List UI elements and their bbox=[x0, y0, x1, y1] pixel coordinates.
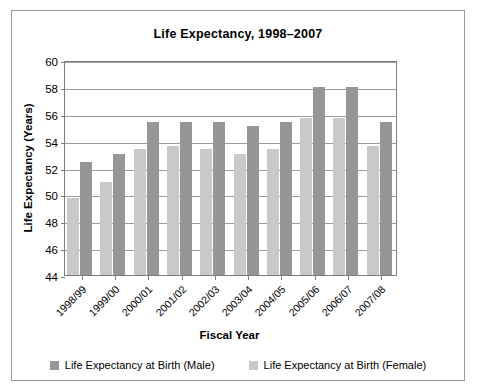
bar-group bbox=[198, 62, 231, 275]
bar-female[interactable] bbox=[200, 149, 212, 275]
y-tick-label: 50 bbox=[45, 190, 58, 202]
x-axis-title: Fiscal Year bbox=[64, 329, 395, 341]
y-tick-label: 58 bbox=[45, 83, 58, 95]
bar-male[interactable] bbox=[113, 154, 125, 275]
bar-female[interactable] bbox=[234, 154, 246, 275]
chart-legend: Life Expectancy at Birth (Male)Life Expe… bbox=[12, 359, 464, 371]
bar-group bbox=[298, 62, 331, 275]
bar-female[interactable] bbox=[267, 149, 279, 275]
x-tick-mark bbox=[348, 275, 349, 280]
bar-female[interactable] bbox=[100, 182, 112, 275]
x-tick-mark bbox=[381, 275, 382, 280]
y-tick-label: 52 bbox=[45, 164, 58, 176]
bar-female[interactable] bbox=[300, 118, 312, 275]
chart-frame: Life Expectancy, 1998–2007 Life Expectan… bbox=[11, 10, 465, 381]
bar-group bbox=[365, 62, 398, 275]
bar-group bbox=[232, 62, 265, 275]
chart-title: Life Expectancy, 1998–2007 bbox=[12, 27, 464, 41]
y-tick-label: 60 bbox=[45, 56, 58, 68]
bar-male[interactable] bbox=[380, 122, 392, 275]
bar-male[interactable] bbox=[180, 122, 192, 275]
bar-group bbox=[331, 62, 364, 275]
y-tick-label: 46 bbox=[45, 244, 58, 256]
x-tick-mark bbox=[148, 275, 149, 280]
legend-entry[interactable]: Life Expectancy at Birth (Female) bbox=[249, 359, 427, 371]
legend-swatch-icon bbox=[249, 361, 258, 370]
legend-label: Life Expectancy at Birth (Female) bbox=[264, 359, 427, 371]
x-tick-mark bbox=[182, 275, 183, 280]
x-tick-mark bbox=[315, 275, 316, 280]
y-tick-label: 44 bbox=[45, 271, 58, 283]
y-tick-label: 54 bbox=[45, 137, 58, 149]
bar-male[interactable] bbox=[280, 122, 292, 275]
bar-female[interactable] bbox=[167, 146, 179, 275]
bar-male[interactable] bbox=[346, 87, 358, 275]
bar-female[interactable] bbox=[134, 149, 146, 275]
y-axis-title: Life Expectancy (Years) bbox=[20, 61, 36, 274]
bar-female[interactable] bbox=[333, 118, 345, 275]
plot-area: 6058565452504846441998/991999/002000/012… bbox=[64, 61, 397, 276]
y-tick-label: 48 bbox=[45, 217, 58, 229]
x-tick-mark bbox=[248, 275, 249, 280]
bar-group bbox=[98, 62, 131, 275]
x-tick-mark bbox=[82, 275, 83, 280]
legend-entry[interactable]: Life Expectancy at Birth (Male) bbox=[50, 359, 215, 371]
legend-label: Life Expectancy at Birth (Male) bbox=[65, 359, 215, 371]
bar-male[interactable] bbox=[213, 122, 225, 275]
bar-female[interactable] bbox=[367, 146, 379, 275]
bar-male[interactable] bbox=[247, 126, 259, 275]
bar-group bbox=[265, 62, 298, 275]
bar-group bbox=[132, 62, 165, 275]
bar-group bbox=[165, 62, 198, 275]
y-tick-mark bbox=[61, 277, 65, 278]
bar-female[interactable] bbox=[67, 198, 79, 275]
bar-group bbox=[65, 62, 98, 275]
bar-male[interactable] bbox=[80, 162, 92, 275]
x-tick-mark bbox=[115, 275, 116, 280]
bar-male[interactable] bbox=[147, 122, 159, 275]
bar-male[interactable] bbox=[313, 87, 325, 275]
x-tick-mark bbox=[281, 275, 282, 280]
y-axis-title-label: Life Expectancy (Years) bbox=[22, 103, 34, 232]
x-tick-mark bbox=[215, 275, 216, 280]
legend-swatch-icon bbox=[50, 361, 59, 370]
y-tick-label: 56 bbox=[45, 110, 58, 122]
